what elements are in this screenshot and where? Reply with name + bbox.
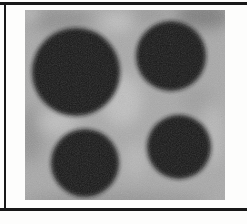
grain-overlay [25, 10, 225, 200]
micrograph-photo [25, 10, 225, 200]
cell-border-top [0, 2, 247, 5]
cell-border-left [4, 2, 6, 211]
cell-border-bottom [0, 208, 247, 211]
micrograph-svg [25, 10, 225, 200]
scanned-figure-cell [0, 0, 247, 224]
